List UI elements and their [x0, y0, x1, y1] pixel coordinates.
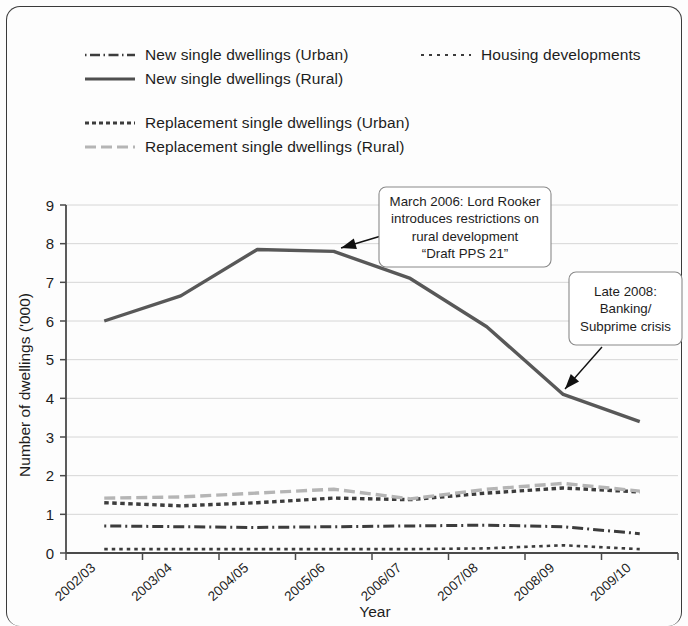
chart-series-lines	[104, 249, 640, 549]
x-tick-label: 2002/03	[52, 560, 98, 604]
chart-x-tick-labels: 2002/032003/042004/052005/062006/072007/…	[52, 560, 634, 604]
series-line	[104, 249, 640, 421]
x-tick-label: 2007/08	[434, 560, 480, 604]
annotation-text-line: “Draft PPS 21”	[422, 246, 508, 261]
y-tick-label: 1	[46, 506, 54, 523]
y-tick-label: 9	[46, 197, 54, 214]
chart-plot-area: 0123456789 2002/032003/042004/052005/062…	[0, 0, 688, 626]
annotation-text-line: March 2006: Lord Rooker	[390, 194, 541, 209]
y-tick-label: 5	[46, 351, 54, 368]
series-line	[104, 545, 640, 549]
x-tick-label: 2003/04	[128, 560, 175, 604]
annotation-text-line: Subprime crisis	[580, 319, 671, 334]
y-tick-label: 0	[46, 545, 54, 562]
x-tick-label: 2005/06	[281, 560, 327, 604]
series-line	[104, 525, 640, 534]
chart-y-tick-labels: 0123456789	[46, 197, 54, 562]
annotation-text-line: rural development	[412, 229, 519, 244]
y-tick-label: 2	[46, 467, 54, 484]
y-axis-title: Number of dwellings ('000)	[16, 293, 33, 477]
y-tick-label: 8	[46, 235, 54, 252]
chart-gridlines	[66, 205, 678, 553]
chart-svg: 0123456789 2002/032003/042004/052005/062…	[0, 0, 688, 626]
annotation-text-line: Late 2008:	[594, 284, 657, 299]
chart-axis-lines	[60, 205, 678, 560]
x-tick-label: 2009/10	[587, 560, 633, 604]
y-tick-label: 6	[46, 313, 54, 330]
x-tick-label: 2006/07	[358, 560, 404, 604]
chart-figure: New single dwellings (Urban) New single …	[0, 0, 688, 626]
annotation-text-line: Banking/	[600, 301, 652, 316]
chart-annotations: March 2006: Lord Rookerintroduces restri…	[341, 187, 682, 389]
series-line	[104, 483, 640, 498]
annotation-text-line: introduces restrictions on	[391, 211, 539, 226]
y-tick-label: 3	[46, 429, 54, 446]
x-axis-title: Year	[359, 603, 390, 620]
x-tick-label: 2004/05	[205, 560, 251, 604]
x-tick-label: 2008/09	[511, 560, 557, 604]
y-tick-label: 7	[46, 274, 54, 291]
y-tick-label: 4	[46, 390, 54, 407]
